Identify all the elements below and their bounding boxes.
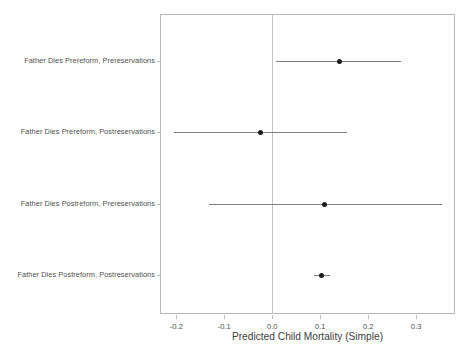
x-axis-tick [176, 315, 177, 319]
x-axis-tick-label: 0.2 [363, 322, 374, 331]
x-axis-tick-label: 0.3 [411, 322, 422, 331]
y-axis-label-1: Father Dies Prereform, Postreservations [0, 127, 155, 136]
x-axis-tick [224, 315, 225, 319]
y-axis-label-2: Father Dies Postreform, Prereservations [0, 199, 155, 208]
x-axis-tick-label: -0.2 [170, 322, 183, 331]
x-axis-tick-label: 0.0 [267, 322, 278, 331]
y-axis-labels: Father Dies Prereform, Prereservations F… [0, 14, 469, 314]
x-axis-tick [368, 315, 369, 319]
coefficient-plot-figure: -0.2-0.10.00.10.20.3 Father Dies Prerefo… [0, 0, 469, 351]
y-axis-label-3: Father Dies Postreform, Postreservations [0, 270, 155, 279]
y-axis-label-0: Father Dies Prereform, Prereservations [0, 56, 155, 65]
x-axis-tick-label: -0.1 [218, 322, 231, 331]
x-axis-title: Predicted Child Mortality (Simple) [160, 331, 455, 342]
x-axis-tick [416, 315, 417, 319]
x-axis-tick [272, 315, 273, 319]
x-axis-tick-label: 0.1 [315, 322, 326, 331]
x-axis-tick [320, 315, 321, 319]
